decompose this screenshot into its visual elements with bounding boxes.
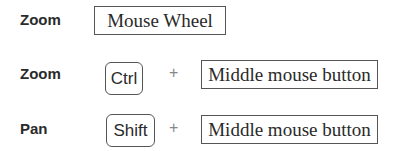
shift-key: Shift bbox=[106, 114, 155, 147]
action-label: Zoom bbox=[20, 11, 61, 28]
plus-sign: + bbox=[169, 64, 178, 82]
mouse-wheel-input-box: Mouse Wheel bbox=[94, 6, 226, 35]
ctrl-key: Ctrl bbox=[105, 62, 143, 95]
middle-mouse-button-box: Middle mouse button bbox=[201, 60, 378, 89]
action-label: Zoom bbox=[20, 65, 61, 82]
action-label: Pan bbox=[20, 120, 48, 137]
middle-mouse-button-box: Middle mouse button bbox=[201, 115, 378, 144]
plus-sign: + bbox=[169, 119, 178, 137]
